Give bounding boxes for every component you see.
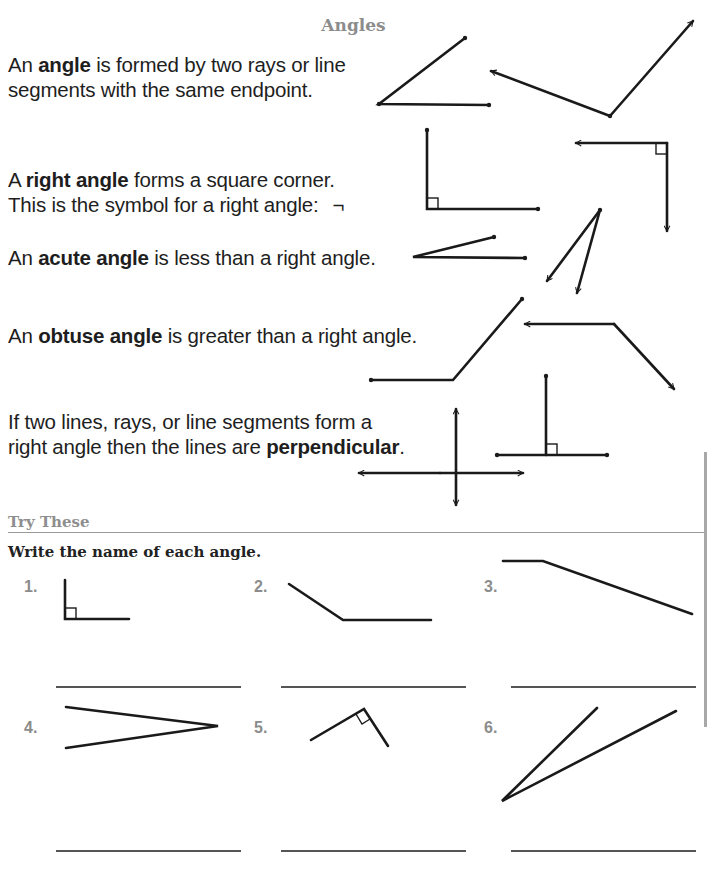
exercise-instruction: Write the name of each angle. xyxy=(8,543,261,561)
answer-line-1[interactable] xyxy=(56,686,241,688)
term-angle: angle xyxy=(38,53,91,76)
definition-perpendicular: If two lines, rays, or line segments for… xyxy=(8,409,405,459)
term-perpendicular: perpendicular xyxy=(266,435,399,458)
exercise-number-2: 2. xyxy=(254,578,267,596)
perpendicular-segments-figure xyxy=(495,374,609,457)
acute-angle-rays-figure xyxy=(547,208,602,293)
exercise-number-3: 3. xyxy=(484,578,497,596)
definition-angle: An angle is formed by two rays or line s… xyxy=(8,52,346,102)
section-heading-try-these: Try These xyxy=(8,513,90,531)
exercise-5-figure xyxy=(311,709,388,746)
right-angle-rays-figure xyxy=(576,143,667,231)
term-right-angle: right angle xyxy=(26,168,129,191)
answer-line-4[interactable] xyxy=(56,850,241,852)
exercise-4-figure xyxy=(66,707,218,748)
exercise-1-figure xyxy=(65,580,129,619)
answer-line-3[interactable] xyxy=(511,686,696,688)
exercise-3-figure xyxy=(503,561,692,614)
right-angle-symbol-icon: ¬ xyxy=(333,192,345,217)
obtuse-angle-rays-figure xyxy=(525,324,674,389)
section-divider xyxy=(8,532,707,533)
exercise-6-figure xyxy=(502,708,676,801)
exercise-number-5: 5. xyxy=(254,719,267,737)
term-acute-angle: acute angle xyxy=(38,246,149,269)
exercise-number-4: 4. xyxy=(24,719,37,737)
right-angle-segments-figure xyxy=(425,128,540,211)
acute-angle-segments-figure xyxy=(413,235,527,260)
exercise-number-6: 6. xyxy=(484,719,497,737)
exercise-number-1: 1. xyxy=(24,578,37,596)
angle-segments-figure xyxy=(377,36,491,107)
angle-rays-figure xyxy=(491,21,693,118)
definition-obtuse-angle: An obtuse angle is greater than a right … xyxy=(8,323,417,348)
answer-line-5[interactable] xyxy=(281,850,466,852)
answer-line-2[interactable] xyxy=(281,686,466,688)
page-title: Angles xyxy=(0,15,707,35)
term-obtuse-angle: obtuse angle xyxy=(38,324,162,347)
exercise-2-figure xyxy=(289,584,431,620)
definition-right-angle: A right angle forms a square corner. Thi… xyxy=(8,167,344,217)
answer-line-6[interactable] xyxy=(511,850,696,852)
definition-acute-angle: An acute angle is less than a right angl… xyxy=(8,245,376,270)
